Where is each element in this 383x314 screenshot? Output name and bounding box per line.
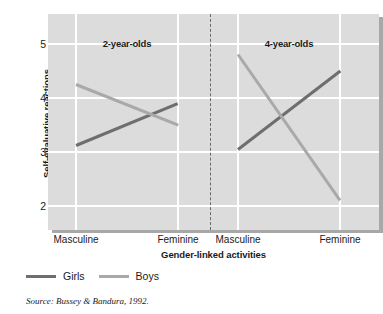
figure-container: Self-evaluative reactions 5432 2-year-ol… [0, 0, 383, 314]
series-line-boys [75, 83, 178, 126]
y-tick-label: 3 [30, 147, 46, 157]
panel-label-right: 4-year-olds [265, 38, 314, 49]
legend-label-girls: Girls [63, 271, 85, 282]
x-tick-label: Feminine [157, 234, 198, 245]
gridline-vertical [237, 14, 239, 230]
y-tick-label: 2 [30, 201, 46, 211]
panel-label-left: 2-year-olds [103, 38, 152, 49]
x-axis-tick-labels: MasculineFeminineMasculineFeminine [0, 234, 383, 250]
y-tick-label: 4 [30, 93, 46, 103]
x-tick-label: Masculine [215, 234, 260, 245]
gridline-horizontal [48, 97, 379, 99]
legend-swatch-boys [99, 275, 129, 279]
x-axis-title: Gender-linked activities [48, 249, 379, 260]
x-tick-label: Feminine [319, 234, 360, 245]
gridline-vertical [177, 14, 179, 230]
series-line-girls [237, 70, 341, 151]
series-line-girls [75, 102, 178, 147]
gridline-horizontal [48, 205, 379, 207]
legend-label-boys: Boys [136, 271, 159, 282]
legend-item-boys: Boys [99, 271, 159, 282]
y-axis-tick-labels: 5432 [30, 14, 46, 230]
series-line-boys [237, 54, 341, 202]
gridline-horizontal [48, 43, 379, 45]
gridline-horizontal [48, 151, 379, 153]
panel-divider [210, 14, 211, 230]
plot-area: 2-year-olds4-year-olds [48, 14, 379, 230]
gridline-vertical [75, 14, 77, 230]
legend-item-girls: Girls [26, 271, 85, 282]
x-tick-label: Masculine [53, 234, 98, 245]
y-tick-label: 5 [30, 39, 46, 49]
source-caption: Source: Bussey & Bandura, 1992. [26, 296, 149, 306]
legend-swatch-girls [26, 275, 56, 279]
chart-legend: Girls Boys [26, 271, 159, 282]
